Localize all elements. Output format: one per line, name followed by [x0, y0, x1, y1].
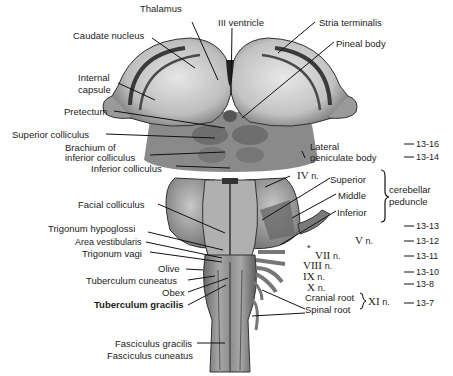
xi-numeral: XI: [368, 295, 380, 307]
label-inferior-peduncle: Inferior: [337, 207, 367, 218]
ref-13-8: 13-8: [416, 279, 434, 290]
ref-13-11: 13-11: [416, 251, 438, 262]
ref-13-13: 13-13: [416, 221, 439, 232]
label-pineal-body: Pineal body: [336, 38, 386, 49]
label-brachium-2: inferior colliculus: [65, 152, 135, 163]
label-stria-terminalis: Stria terminalis: [319, 17, 382, 28]
label-caudate-nucleus: Caudate nucleus: [73, 30, 144, 41]
label-fasciculus-cuneatus: Fasciculus cuneatus: [107, 350, 193, 361]
ref-13-14: 13-14: [416, 152, 439, 163]
label-peduncle: peduncle: [389, 196, 428, 207]
iv-suffix: n.: [311, 171, 319, 181]
label-iv-nerve: IV n.: [297, 170, 319, 182]
label-pretectum: Pretectum: [64, 106, 107, 117]
label-olive: Olive: [158, 263, 180, 274]
label-thalamus: Thalamus: [140, 3, 182, 14]
label-cranial-root: Cranial root: [305, 292, 354, 303]
label-lateral-geniculate-2: geniculate body: [310, 152, 377, 163]
v-suffix: n.: [366, 236, 374, 246]
xi-suffix: n.: [382, 297, 390, 307]
label-tuberculum-gracilis: Tuberculum gracilis: [94, 299, 184, 310]
label-area-vestibularis: Area vestibularis: [75, 237, 142, 248]
ref-13-16: 13-16: [416, 139, 439, 150]
ref-13-10: 13-10: [416, 267, 439, 278]
label-tuberculum-cuneatus: Tuberculum cuneatus: [86, 275, 177, 286]
label-trigonum-hypoglossi: Trigonum hypoglossi: [48, 223, 135, 234]
label-internal-capsule-1: Internal: [78, 72, 110, 83]
label-third-ventricle: III ventricle: [218, 17, 264, 28]
label-inferior-colliculus: Inferior colliculus: [91, 163, 162, 174]
ix-suffix: n.: [317, 272, 325, 282]
label-cerebellar: cerebellar: [389, 184, 431, 195]
label-facial-colliculus: Facial colliculus: [78, 199, 145, 210]
vii-suffix: n.: [333, 251, 341, 261]
ref-13-7: 13-7: [416, 298, 434, 309]
label-lateral-geniculate-1: Lateral: [310, 141, 339, 152]
label-superior-colliculus: Superior colliculus: [12, 129, 89, 140]
label-superior-peduncle: Superior: [330, 174, 366, 185]
brainstem-illustration: [0, 0, 453, 376]
label-spinal-root: Spinal root: [305, 304, 350, 315]
ref-13-12: 13-12: [416, 236, 439, 247]
brainstem-diagram: Thalamus Caudate nucleus Internal capsul…: [0, 0, 453, 376]
asterisk-marker: *: [307, 243, 311, 254]
v-numeral: V: [355, 234, 363, 246]
label-v-nerve: V n.: [355, 235, 373, 247]
label-fasciculus-gracilis: Fasciculus gracilis: [115, 338, 192, 349]
label-middle-peduncle: Middle: [338, 190, 366, 201]
label-xi-nerve: XI n.: [368, 296, 390, 308]
iv-numeral: IV: [297, 169, 308, 181]
viii-suffix: n.: [325, 261, 333, 271]
label-internal-capsule-2: capsule: [78, 84, 111, 95]
label-trigonum-vagi: Trigonum vagi: [82, 248, 142, 259]
label-obex: Obex: [162, 287, 185, 298]
